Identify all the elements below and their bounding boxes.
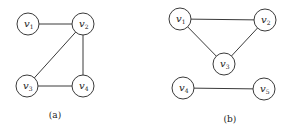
node-v5: v5 — [253, 78, 275, 100]
caption-a: (a) — [49, 110, 61, 120]
node-v2: v2 — [72, 13, 94, 35]
node-subscript: 1 — [182, 18, 186, 25]
node-subscript: 4 — [185, 87, 189, 94]
edge-v1-v2 — [180, 19, 265, 20]
node-v4: v4 — [72, 75, 94, 97]
caption-b: (b) — [224, 114, 237, 124]
graph-b: v1v2v3v4v5(b) — [169, 8, 276, 124]
node-subscript: 2 — [267, 19, 271, 26]
node-subscript: 5 — [266, 88, 270, 95]
node-subscript: 1 — [30, 23, 34, 30]
node-v1: v1 — [17, 13, 39, 35]
edge-v4-v5 — [183, 88, 264, 89]
node-v3: v3 — [16, 75, 38, 97]
node-v3: v3 — [213, 53, 235, 75]
node-v4: v4 — [172, 77, 194, 99]
graph-a: v1v2v3v4(a) — [16, 13, 94, 120]
node-v1: v1 — [169, 8, 191, 30]
edge-v2-v3 — [27, 24, 83, 86]
node-subscript: 2 — [85, 23, 89, 30]
node-subscript: 4 — [85, 85, 89, 92]
node-subscript: 3 — [29, 85, 33, 92]
node-v2: v2 — [254, 9, 276, 31]
graph-diagram: v1v2v3v4(a) v1v2v3v4v5(b) — [0, 0, 289, 136]
node-subscript: 3 — [226, 63, 230, 70]
